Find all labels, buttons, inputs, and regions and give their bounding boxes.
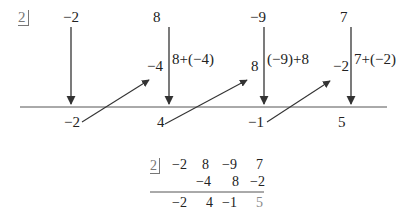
product-2: 8 (251, 59, 259, 74)
divisor: 2 (18, 10, 29, 26)
sum-expression-3: 7+(−2) (354, 52, 396, 67)
coefficient-1: −2 (63, 10, 79, 25)
table-row3-cell: 4 (206, 196, 213, 210)
coefficient-3: −9 (250, 10, 266, 25)
product-3: −2 (333, 59, 349, 74)
result-1: −2 (64, 115, 80, 130)
coefficient-4: 7 (340, 10, 348, 25)
coefficient-2: 8 (153, 10, 161, 25)
table-row1-cell: 8 (202, 158, 209, 172)
table-row3-cell: −2 (172, 196, 187, 210)
result-2: 4 (157, 115, 165, 130)
table-row1-cell: 7 (256, 158, 263, 172)
table-row1-cell: −2 (172, 158, 187, 172)
result-3: −1 (248, 115, 264, 130)
table-row3-cell: −1 (222, 196, 237, 210)
table-row2-cell: −4 (196, 175, 211, 189)
sum-expression-1: 8+(−4) (172, 52, 214, 67)
table-remainder: 5 (256, 196, 263, 210)
sum-expression-2: (−9)+8 (267, 52, 309, 67)
result-4: 5 (338, 115, 346, 130)
table-row1-cell: −9 (222, 158, 237, 172)
table-row2-cell: −2 (250, 175, 265, 189)
product-1: −4 (147, 59, 163, 74)
table-divisor: 2 (150, 158, 160, 174)
table-row2-cell: 8 (232, 175, 239, 189)
